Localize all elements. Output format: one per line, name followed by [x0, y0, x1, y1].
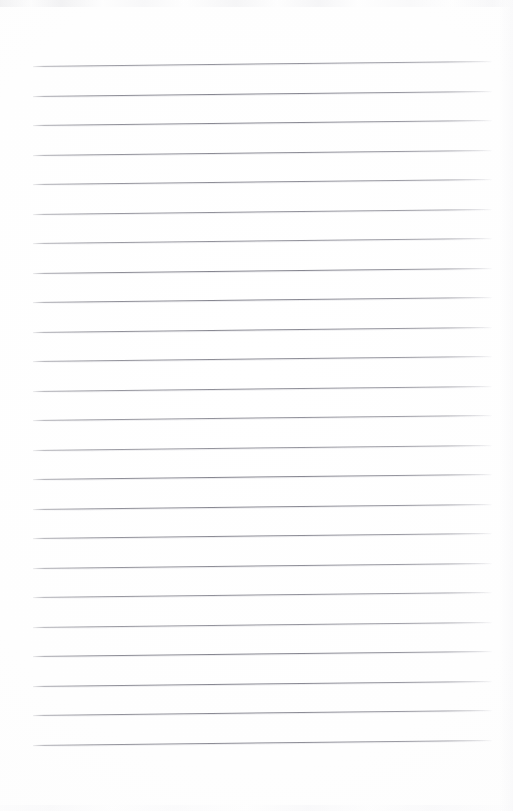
ruled-line — [33, 710, 492, 716]
ruled-line — [33, 533, 492, 539]
right-edge-shade — [499, 0, 513, 811]
top-edge-scan-artifact — [0, 0, 513, 7]
ruled-line — [33, 563, 492, 569]
ruled-line — [33, 474, 492, 480]
ruled-line — [33, 622, 492, 628]
ruled-line — [33, 150, 492, 156]
bottom-edge-scan-artifact — [0, 805, 513, 811]
ruled-line — [33, 209, 492, 215]
ruled-lines-layer — [0, 0, 513, 811]
ruled-line — [33, 415, 492, 421]
ruled-line — [33, 681, 492, 687]
ruled-line — [33, 238, 492, 244]
ruled-line — [33, 268, 492, 274]
ruled-line — [33, 179, 492, 185]
ruled-line — [33, 651, 492, 657]
ruled-line — [33, 504, 492, 510]
paper-surface — [0, 0, 513, 811]
ruled-line — [33, 386, 492, 392]
ruled-line — [33, 356, 492, 362]
ruled-line — [33, 91, 492, 97]
ruled-line — [33, 61, 492, 67]
ruled-line — [33, 120, 492, 126]
scanned-page — [0, 0, 513, 811]
ruled-line — [33, 327, 492, 333]
ruled-line — [33, 592, 492, 598]
ruled-line — [33, 445, 492, 451]
ruled-line — [33, 297, 492, 303]
ruled-line — [33, 740, 492, 746]
